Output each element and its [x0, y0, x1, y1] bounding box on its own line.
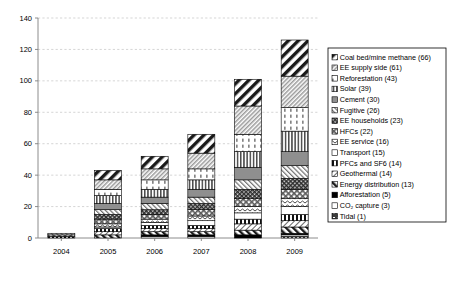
bar-segment-reforestation[interactable] — [281, 108, 308, 132]
legend-item[interactable]: CO₂ capture (3) — [332, 201, 390, 210]
bar-segment-hfcs[interactable] — [95, 219, 122, 224]
legend-swatch-hfcs — [332, 129, 338, 135]
bar-segment-transport[interactable] — [281, 207, 308, 215]
bar-segment-geothermal[interactable] — [95, 232, 122, 235]
bar-segment-cement[interactable] — [141, 197, 168, 203]
legend-item-label: Solar (39) — [340, 84, 372, 93]
bar-segment-eeservice[interactable] — [95, 224, 122, 227]
bar-segment-eesupply[interactable] — [141, 169, 168, 180]
bar-segment-eeservice[interactable] — [141, 219, 168, 222]
bar-segment-fugitive[interactable] — [235, 180, 262, 189]
bar-segment-coalbed[interactable] — [95, 170, 122, 179]
bar-segment-reforestation[interactable] — [188, 169, 215, 180]
bar-segment-solar[interactable] — [95, 196, 122, 204]
x-axis-tick-labels: 200420052006200720082009 — [53, 238, 303, 256]
bar-segment-energydist[interactable] — [95, 235, 122, 238]
legend-swatch-eeservice — [332, 139, 338, 145]
bar-segment-fugitive[interactable] — [48, 233, 75, 235]
bar-segment-fugitive[interactable] — [188, 197, 215, 203]
legend-item[interactable]: Coal bed/mine methane (66) — [332, 53, 431, 62]
legend-item[interactable]: EE households (23) — [332, 116, 403, 125]
bar-segment-hfcs[interactable] — [188, 210, 215, 216]
stacked-bar-chart: 020406080100120140 200420052006200720082… — [0, 0, 450, 282]
bar-segment-pfcs[interactable] — [235, 219, 262, 224]
bar-segment-transport[interactable] — [235, 213, 262, 219]
bar-segment-eehouseholds[interactable] — [95, 214, 122, 219]
legend-item[interactable]: Geothermal (14) — [332, 169, 392, 178]
legend-swatch-energydist — [332, 182, 338, 188]
legend-item[interactable]: Reforestation (43) — [332, 74, 397, 83]
legend-item[interactable]: Energy distribution (13) — [332, 180, 414, 189]
y-tick-label: 40 — [24, 171, 32, 180]
legend: Coal bed/mine methane (66)EE supply side… — [328, 48, 446, 222]
bar-segment-eesupply[interactable] — [281, 76, 308, 107]
bar-segment-coalbed[interactable] — [235, 79, 262, 106]
legend-item-label: CO₂ capture (3) — [340, 201, 390, 210]
bar-segment-solar[interactable] — [281, 131, 308, 151]
legend-item-label: Geothermal (14) — [340, 169, 392, 178]
legend-item[interactable]: EE supply side (61) — [332, 63, 402, 72]
y-tick-label: 60 — [24, 139, 32, 148]
bar-segment-reforestation[interactable] — [95, 189, 122, 195]
bar-segment-transport[interactable] — [188, 221, 215, 226]
bar-segment-eeservice[interactable] — [281, 199, 308, 207]
bar-segment-energydist[interactable] — [235, 230, 262, 235]
bar-segment-solar[interactable] — [141, 189, 168, 197]
bar-segment-afforestation[interactable] — [235, 235, 262, 238]
legend-item[interactable]: Fugitive (26) — [332, 106, 380, 115]
bar-segment-coalbed[interactable] — [188, 134, 215, 153]
bar-segment-energydist[interactable] — [141, 232, 168, 235]
bar-2008[interactable] — [235, 79, 262, 238]
bar-segment-energydist[interactable] — [188, 232, 215, 235]
bar-segment-eehouseholds[interactable] — [188, 203, 215, 209]
bar-2006[interactable] — [141, 156, 168, 238]
bar-segment-eesupply[interactable] — [188, 153, 215, 169]
bar-segment-eeservice[interactable] — [235, 207, 262, 213]
bar-segment-eeservice[interactable] — [188, 216, 215, 221]
bar-segment-cement[interactable] — [281, 152, 308, 166]
legend-item[interactable]: EE service (16) — [332, 137, 389, 146]
bar-segment-coalbed[interactable] — [281, 40, 308, 76]
bar-segment-geothermal[interactable] — [281, 221, 308, 227]
bar-segment-geothermal[interactable] — [188, 229, 215, 232]
legend-item[interactable]: Cement (30) — [332, 95, 380, 104]
bar-segment-hfcs[interactable] — [281, 189, 308, 198]
x-tick-label: 2004 — [53, 247, 70, 256]
bar-segment-hfcs[interactable] — [235, 199, 262, 207]
bar-segment-transport[interactable] — [141, 222, 168, 225]
bar-segment-solar[interactable] — [235, 152, 262, 168]
bar-segment-hfcs[interactable] — [141, 214, 168, 219]
bar-2007[interactable] — [188, 134, 215, 238]
bar-2009[interactable] — [281, 40, 308, 238]
bar-segment-reforestation[interactable] — [141, 180, 168, 189]
bar-segment-cement[interactable] — [95, 203, 122, 209]
legend-swatch-reforestation — [332, 76, 338, 82]
bar-segment-eesupply[interactable] — [235, 106, 262, 134]
bar-segment-geothermal[interactable] — [141, 229, 168, 232]
bar-segment-eehouseholds[interactable] — [235, 189, 262, 198]
bar-segment-solar[interactable] — [188, 180, 215, 189]
legend-item[interactable]: Afforestation (5) — [332, 190, 391, 199]
bar-segment-fugitive[interactable] — [95, 210, 122, 215]
bar-segment-pfcs[interactable] — [281, 214, 308, 220]
bar-segment-energydist[interactable] — [281, 227, 308, 233]
bar-segment-eesupply[interactable] — [95, 180, 122, 189]
bar-segment-coalbed[interactable] — [141, 156, 168, 169]
y-tick-label: 140 — [19, 14, 32, 23]
bar-segment-pfcs[interactable] — [95, 229, 122, 232]
bar-segment-eehouseholds[interactable] — [141, 210, 168, 215]
bar-segment-eehouseholds[interactable] — [281, 178, 308, 189]
bar-2005[interactable] — [95, 170, 122, 238]
bar-segment-cement[interactable] — [235, 167, 262, 180]
bar-segment-geothermal[interactable] — [235, 224, 262, 230]
y-tick-label: 0 — [28, 234, 32, 243]
bar-segment-reforestation[interactable] — [235, 134, 262, 151]
legend-item[interactable]: PFCs and SF6 (14) — [332, 159, 402, 168]
bar-segment-cement[interactable] — [188, 189, 215, 197]
bar-segment-fugitive[interactable] — [281, 166, 308, 179]
bar-segment-pfcs[interactable] — [188, 225, 215, 228]
bar-2004[interactable] — [48, 233, 75, 238]
bar-segment-pfcs[interactable] — [141, 225, 168, 228]
bar-segment-fugitive[interactable] — [141, 203, 168, 209]
legend-item[interactable]: Transport (15) — [332, 148, 385, 157]
